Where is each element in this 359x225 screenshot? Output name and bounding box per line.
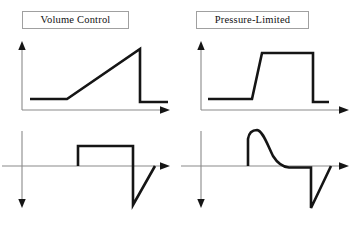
chart-pressure-limited-flow [179,126,359,224]
chart-pressure-limited-pressure [179,38,359,114]
chart-volume-control-flow [0,126,180,224]
flow-square-waveform [78,146,155,205]
x-axis-arrow-right-icon [339,106,349,113]
chart-volume-control-pressure [0,38,180,114]
flow-decelerating-waveform [248,130,331,208]
y-axis-arrow-up-icon [18,41,25,50]
panel-volume-control: Volume Control [0,0,180,225]
panel-title-pressure-limited: Pressure-Limited [196,11,309,29]
y-axis-arrow-down-icon [197,199,204,208]
y-axis-arrow-up-icon [197,41,204,50]
panel-pressure-limited: Pressure-Limited [179,0,359,225]
x-axis-arrow-right-icon [339,162,349,169]
pressure-ramp-waveform [30,49,168,102]
y-axis-arrow-down-icon [18,199,25,208]
x-axis-arrow-right-icon [160,106,170,113]
pressure-square-waveform [208,53,329,102]
panel-title-volume-control: Volume Control [22,11,129,29]
waveform-figure: Volume Control [0,0,359,225]
x-axis-arrow-right-icon [160,162,170,169]
